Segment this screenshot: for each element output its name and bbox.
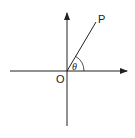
- angle-arc: [76, 56, 84, 71]
- angle-label: θ: [72, 61, 77, 72]
- point-label: P: [98, 13, 105, 25]
- origin-label: O: [56, 73, 65, 85]
- polar-angle-diagram: P O θ: [0, 0, 135, 138]
